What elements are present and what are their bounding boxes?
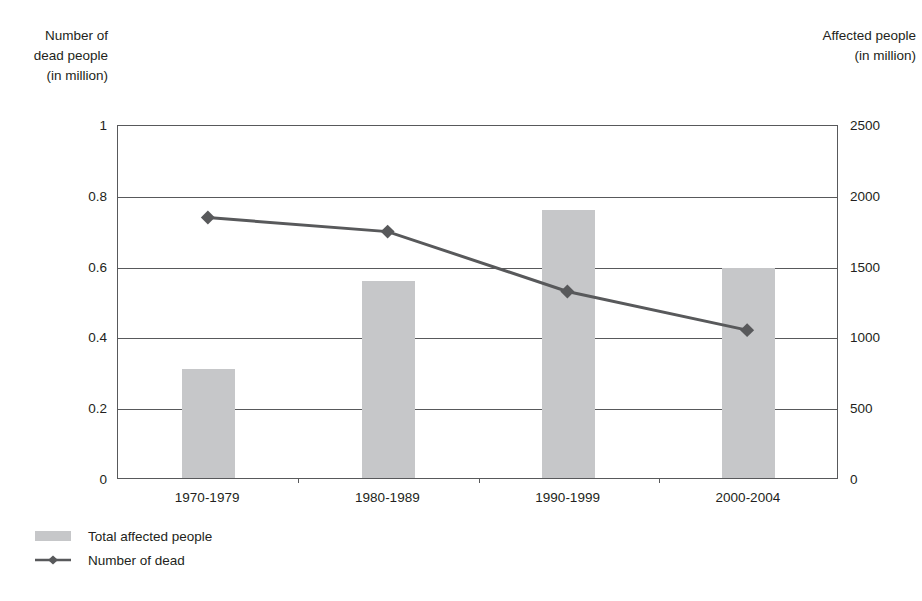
bar-swatch-icon (30, 531, 76, 541)
left-tick-label: 0.2 (88, 402, 107, 416)
line-marker (381, 225, 395, 239)
category-label: 1970-1979 (175, 490, 240, 506)
line-series (118, 126, 837, 478)
left-tick-label: 0.6 (88, 261, 107, 275)
left-tick-label: 0.8 (88, 190, 107, 204)
right-tick-label: 1000 (850, 332, 880, 346)
legend-item-number-of-dead: Number of dead (30, 548, 212, 572)
legend-item-total-affected-people: Total affected people (30, 524, 212, 548)
right-tick-label: 2000 (850, 190, 880, 204)
right-axis-title: Affected people (in million) (716, 26, 916, 66)
right-tick-label: 0 (850, 473, 858, 487)
category-label: 1990-1999 (535, 490, 600, 506)
left-tick-label: 0 (99, 473, 107, 487)
left-tick-label: 0.4 (88, 332, 107, 346)
line-path (208, 218, 747, 331)
legend-label-0: Total affected people (88, 529, 212, 544)
x-axis-tick (479, 478, 480, 483)
x-axis-tick (298, 478, 299, 483)
line-marker (560, 284, 574, 298)
x-axis-tick (659, 478, 660, 483)
category-label: 1980-1989 (355, 490, 420, 506)
category-label: 2000-2004 (716, 490, 781, 506)
left-tick-label: 1 (99, 119, 107, 133)
chart-legend: Total affected people Number of dead (30, 524, 212, 572)
plot-area: 00.20.40.60.81 05001000150020002500 (117, 125, 838, 479)
line-marker (740, 323, 754, 337)
line-marker (201, 211, 215, 225)
line-marker-swatch-icon (30, 553, 76, 567)
right-tick-label: 2500 (850, 119, 880, 133)
left-axis-title: Number of dead people (in million) (0, 26, 108, 86)
legend-label-1: Number of dead (88, 553, 185, 568)
right-tick-label: 500 (850, 402, 873, 416)
right-tick-label: 1500 (850, 261, 880, 275)
